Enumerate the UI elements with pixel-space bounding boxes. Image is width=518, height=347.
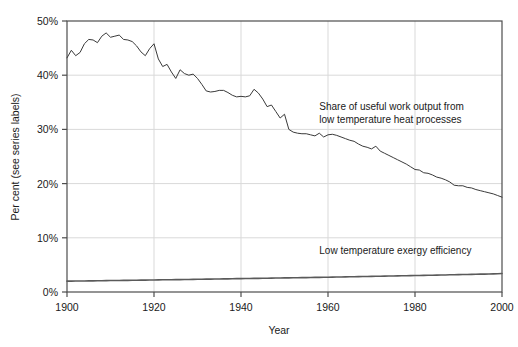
x-tick-label: 2000	[490, 301, 514, 313]
share-label-line: Share of useful work output from	[319, 101, 464, 112]
line-chart: 190019201940196019802000 0%10%20%30%40%5…	[0, 0, 518, 347]
efficiency-label: Low temperature exergy efficiency	[319, 245, 471, 256]
x-axis-title: Year	[268, 324, 290, 336]
y-axis-title: Per cent (see series labels)	[9, 93, 21, 220]
y-tick-label: 20%	[37, 178, 58, 190]
y-tick-label: 40%	[37, 69, 58, 81]
x-tick-label: 1960	[316, 301, 340, 313]
efficiency-label-line: Low temperature exergy efficiency	[319, 245, 471, 256]
chart-background	[0, 0, 518, 347]
x-tick-label: 1940	[229, 301, 253, 313]
y-tick-label: 30%	[37, 123, 58, 135]
x-tick-label: 1900	[55, 301, 79, 313]
share-label: Share of useful work output fromlow temp…	[319, 101, 464, 125]
chart-figure: 190019201940196019802000 0%10%20%30%40%5…	[0, 0, 518, 347]
y-tick-label: 10%	[37, 232, 58, 244]
y-tick-label: 0%	[43, 286, 58, 298]
share-label-line: low temperature heat processes	[319, 114, 461, 125]
x-tick-label: 1980	[403, 301, 427, 313]
y-tick-label: 50%	[37, 15, 58, 27]
x-tick-label: 1920	[142, 301, 166, 313]
